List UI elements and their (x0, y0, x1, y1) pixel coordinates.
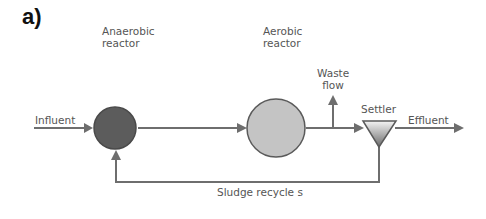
effluent-arrowhead-icon (454, 123, 464, 133)
settler-inlet-arrowhead-icon (354, 123, 364, 133)
waste-arrowhead-icon (328, 95, 338, 105)
sludge-recycle-line (116, 147, 379, 182)
settler-icon (363, 121, 396, 147)
anaerobic-reactor-icon (94, 107, 136, 149)
process-flow-diagram (0, 0, 486, 219)
influent-arrowhead-icon (84, 123, 93, 133)
aerobic-inlet-arrowhead-icon (237, 123, 247, 133)
aerobic-reactor-icon (247, 99, 305, 157)
recycle-arrowhead-icon (111, 150, 121, 160)
